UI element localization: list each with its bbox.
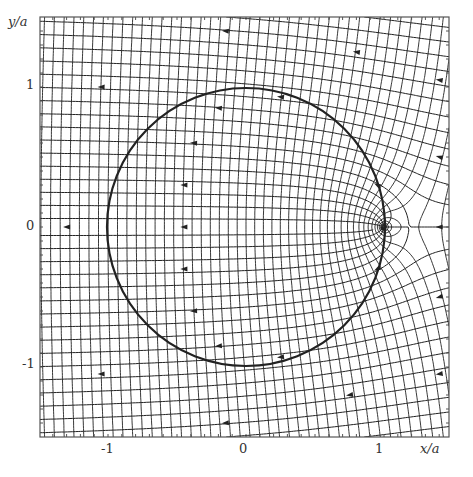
equipotential-line bbox=[228, 17, 240, 437]
arrow-icon bbox=[63, 225, 70, 230]
equipotential-line bbox=[89, 17, 94, 437]
x-tick-label-1: 1 bbox=[375, 441, 383, 456]
equipotential-line bbox=[108, 17, 113, 437]
equipotential-line bbox=[146, 17, 153, 437]
equipotential-line bbox=[327, 17, 359, 437]
equipotential-line bbox=[255, 17, 270, 437]
field-line bbox=[364, 17, 449, 28]
field-line bbox=[40, 166, 449, 314]
y-tick-label-minus-1: -1 bbox=[22, 356, 35, 371]
arrow-icon bbox=[180, 225, 187, 230]
equipotential-line bbox=[246, 17, 260, 437]
equipotential-line bbox=[297, 17, 320, 437]
equipotential-line bbox=[118, 17, 124, 437]
field-line bbox=[40, 192, 449, 340]
arrow-icon bbox=[277, 354, 284, 359]
field-line bbox=[364, 427, 449, 438]
field-line bbox=[40, 114, 449, 262]
arrow-icon bbox=[353, 50, 360, 55]
equipotential-line bbox=[237, 17, 250, 437]
arrow-icon bbox=[277, 95, 284, 100]
y-tick-label-0: 0 bbox=[26, 218, 34, 233]
equipotential-line bbox=[201, 17, 211, 437]
equipotential-line bbox=[79, 17, 83, 437]
x-tick-label-0: 0 bbox=[239, 441, 247, 456]
equipotential-line bbox=[164, 17, 171, 437]
y-tick-label-1: 1 bbox=[26, 77, 34, 92]
equipotential-line bbox=[51, 17, 55, 437]
arrow-icon bbox=[436, 225, 443, 230]
equipotential-line bbox=[219, 17, 230, 437]
field-line bbox=[40, 127, 449, 275]
field-line bbox=[40, 140, 449, 288]
arrow-icon bbox=[346, 392, 353, 397]
equipotential-line bbox=[289, 17, 310, 437]
arrow-icon bbox=[436, 371, 443, 376]
arrow-icon bbox=[180, 266, 187, 271]
equipotential-line bbox=[70, 17, 74, 437]
equipotential-line bbox=[136, 17, 142, 437]
equipotential-line bbox=[334, 17, 370, 437]
equipotential-line bbox=[127, 17, 133, 437]
arrow-icon bbox=[436, 78, 443, 83]
arrow-icon bbox=[215, 106, 222, 111]
equipotential-line bbox=[155, 17, 162, 437]
field-line bbox=[40, 179, 449, 327]
field-line-diagram: y/a x/a 1 0 -1 -1 0 1 bbox=[0, 0, 473, 477]
arrow-icon bbox=[180, 183, 187, 188]
y-axis-title: y/a bbox=[8, 14, 27, 29]
x-tick-label-minus-1: -1 bbox=[101, 441, 114, 456]
equipotential-line bbox=[341, 17, 380, 437]
arrow-icon bbox=[436, 155, 443, 160]
arrow-icon bbox=[436, 294, 443, 299]
plot-canvas bbox=[0, 0, 473, 477]
x-axis-title: x/a bbox=[420, 441, 439, 456]
arrow-icon bbox=[215, 343, 222, 348]
